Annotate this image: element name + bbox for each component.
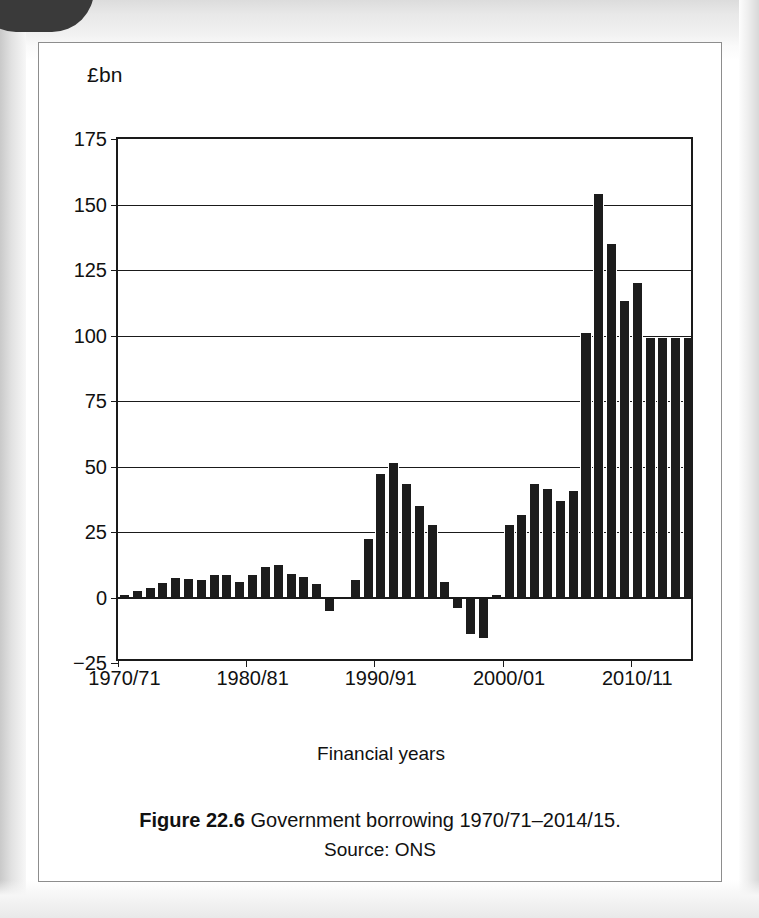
x-axis-tick — [118, 659, 119, 667]
bar — [209, 575, 220, 597]
y-axis-tick-label: 0 — [96, 586, 107, 609]
y-axis-tick — [111, 467, 118, 468]
bar — [593, 194, 604, 597]
x-axis-tick — [374, 659, 375, 667]
bar — [427, 525, 438, 597]
y-axis-tick-label: 75 — [85, 390, 107, 413]
bar — [580, 333, 591, 598]
bar — [478, 598, 489, 639]
bar — [363, 539, 374, 598]
page-gutter-shadow-left — [0, 0, 26, 918]
x-axis-tick — [246, 659, 247, 667]
x-axis-tick — [503, 659, 504, 667]
x-axis-tick-label: 2000/01 — [473, 667, 545, 690]
y-axis-tick — [111, 401, 118, 402]
bar — [324, 598, 335, 611]
y-axis-tick-label: 25 — [85, 521, 107, 544]
x-axis-tick-label: 1980/81 — [216, 667, 288, 690]
y-axis-tick-label: 100 — [74, 324, 107, 347]
bar — [414, 506, 425, 598]
bar — [452, 598, 463, 608]
x-axis-title: Financial years — [39, 743, 723, 765]
y-axis-tick-label: 50 — [85, 455, 107, 478]
bar — [388, 463, 399, 598]
y-axis-tick-label: 175 — [74, 128, 107, 151]
bar — [260, 567, 271, 597]
bar — [606, 244, 617, 598]
bar — [157, 583, 168, 597]
bar — [504, 525, 515, 597]
bar — [439, 582, 450, 598]
bar — [183, 579, 194, 597]
bar — [465, 598, 476, 635]
x-axis-tick-label: 1990/91 — [345, 667, 417, 690]
caption-description: Government borrowing 1970/71–2014/15. — [250, 809, 620, 831]
bar — [196, 580, 207, 597]
bars-layer — [118, 139, 691, 659]
y-axis-tick — [111, 139, 118, 140]
bar-chart: £bn 1751501251007550250−25 1970/711980/8… — [39, 43, 723, 703]
bar — [657, 338, 668, 597]
bar — [529, 484, 540, 598]
bar — [375, 474, 386, 597]
page-gutter-shadow-right — [739, 0, 759, 918]
bar — [645, 338, 656, 597]
y-axis-unit-label: £bn — [87, 63, 123, 87]
figure-caption: Figure 22.6 Government borrowing 1970/71… — [39, 805, 721, 865]
bar — [516, 515, 527, 598]
bar — [542, 489, 553, 598]
bar — [619, 301, 630, 597]
bar — [401, 484, 412, 598]
y-axis-tick-label: 125 — [74, 259, 107, 282]
zero-baseline — [118, 597, 691, 599]
x-axis-tick-label: 2010/11 — [602, 667, 673, 690]
bar — [298, 577, 309, 598]
bar — [286, 574, 297, 598]
y-axis-tick — [111, 270, 118, 271]
bar — [234, 582, 245, 598]
figure-container: £bn 1751501251007550250−25 1970/711980/8… — [38, 42, 722, 882]
y-axis-tick — [111, 532, 118, 533]
caption-main-line: Figure 22.6 Government borrowing 1970/71… — [39, 805, 721, 835]
x-axis-tick — [631, 659, 632, 667]
bar — [247, 575, 258, 597]
caption-figure-number: Figure 22.6 — [139, 809, 245, 831]
y-axis-tick — [111, 663, 118, 664]
bar — [221, 575, 232, 597]
bar — [170, 578, 181, 598]
bar — [273, 565, 284, 598]
y-axis-tick-label: 150 — [74, 193, 107, 216]
bar — [632, 283, 643, 597]
bar — [568, 491, 579, 597]
y-axis-tick — [111, 336, 118, 337]
x-axis-tick-label: 1970/71 — [88, 667, 160, 690]
y-axis-tick — [111, 598, 118, 599]
bar — [670, 338, 681, 597]
bar — [555, 501, 566, 598]
caption-source: Source: ONS — [39, 835, 721, 865]
page-bottom-shadow — [0, 880, 759, 918]
bar — [350, 580, 361, 597]
plot-area: 1751501251007550250−25 1970/711980/81199… — [116, 137, 693, 661]
y-axis-tick — [111, 205, 118, 206]
bar — [683, 338, 694, 597]
